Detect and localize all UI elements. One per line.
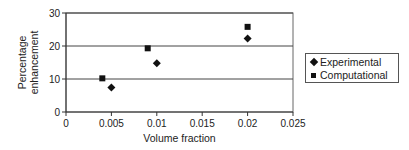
y-axis-title: Percentageenhancement [16,31,40,95]
plot-area [66,13,293,112]
legend-item-computational: Computational [309,69,398,82]
y-tick-label: 10 [49,74,61,85]
x-tick-label: 0.02 [238,118,258,129]
legend-label: Computational [320,69,388,82]
x-tick-label: 0.01 [147,118,167,129]
legend: Experimental Computational [305,53,399,83]
x-axis-title: Volume fraction [143,132,216,144]
computational-point [245,24,251,30]
x-tick-label: 0.025 [280,118,305,129]
computational-point [145,45,151,51]
computational-point [99,75,105,81]
legend-item-experimental: Experimental [309,56,398,69]
y-axis-ticks: 0102030 [49,8,66,118]
y-tick-label: 20 [49,41,61,52]
legend-label: Experimental [320,56,381,69]
y-tick-label: 30 [49,8,61,19]
square-marker-icon [309,69,318,82]
x-tick-label: 0.015 [190,118,215,129]
x-tick-label: 0.005 [99,118,124,129]
y-tick-label: 0 [54,107,60,118]
x-axis-ticks: 00.0050.010.0150.020.025 [63,112,306,129]
diamond-marker-icon [309,56,318,69]
x-tick-label: 0 [63,118,69,129]
